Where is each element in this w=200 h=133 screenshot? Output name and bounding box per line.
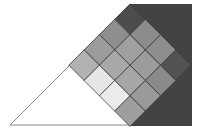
geometric-diagram	[0, 0, 200, 133]
